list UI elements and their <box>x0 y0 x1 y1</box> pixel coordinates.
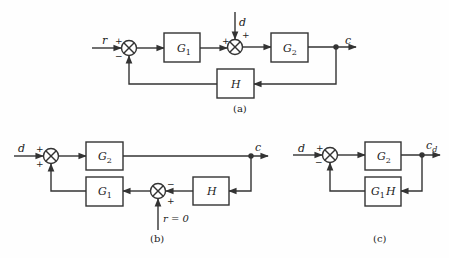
block-h-b-label: H <box>206 185 217 198</box>
diagram-b <box>14 142 268 230</box>
output-label-a: c <box>345 34 351 47</box>
input-label-b: d <box>18 142 25 155</box>
reference-label-b: r = 0 <box>163 213 190 224</box>
input-label-c: d <box>298 142 305 155</box>
sign-a2-left-plus: + <box>222 36 230 46</box>
disturbance-label-a: d <box>239 16 246 29</box>
block-h-a-label: H <box>230 78 241 91</box>
input-label-a: r <box>102 34 108 47</box>
sign-b1-top-plus: + <box>36 144 44 154</box>
sign-a2-top-plus: + <box>242 30 250 40</box>
diagram-a <box>92 12 356 98</box>
output-label-b: c <box>255 141 261 154</box>
caption-b: (b) <box>150 233 164 244</box>
output-label-c: cd <box>426 139 437 154</box>
sign-c1-minus: − <box>315 157 323 167</box>
sign-a1-minus: − <box>115 51 123 61</box>
sign-b2-plus: + <box>167 196 175 206</box>
sign-b1-bottom-plus: + <box>36 159 44 169</box>
block-diagram-figure: r + − G1 d + + G2 c H (a) d + + G2 c H −… <box>0 0 449 258</box>
diagram-svg: r + − G1 d + + G2 c H (a) d + + G2 c H −… <box>0 0 449 258</box>
sign-a1-plus: + <box>115 36 123 46</box>
sign-b2-minus: − <box>167 179 175 189</box>
sign-c1-plus: + <box>316 143 324 153</box>
caption-c: (c) <box>373 233 387 244</box>
caption-a: (a) <box>233 103 247 114</box>
